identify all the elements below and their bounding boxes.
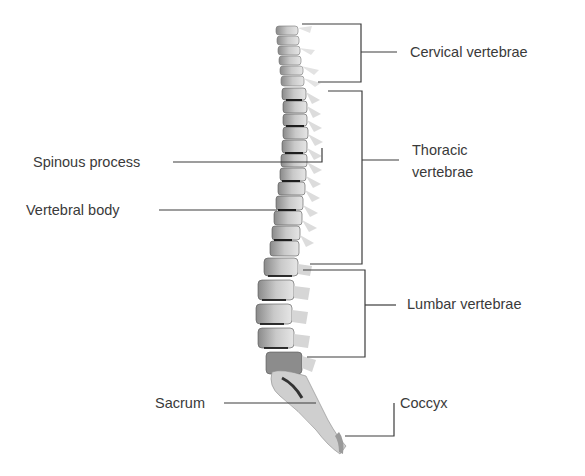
label-cervical-vertebrae: Cervical vertebrae [410,43,528,61]
sacrum-bone [271,371,346,454]
lumbar-bracket [303,270,365,357]
label-thoracic-line1: Thoracic [412,141,468,159]
label-sacrum: Sacrum [155,394,205,412]
label-vertebral-body: Vertebral body [26,201,120,219]
coccyx-bracket [345,403,394,436]
label-thoracic-line2: vertebrae [412,163,473,181]
spine-illustration [256,26,346,454]
label-coccyx: Coccyx [400,394,448,412]
thoracic-bracket [310,91,362,264]
label-spinous-process: Spinous process [33,153,140,171]
spine-diagram [0,0,585,476]
label-lumbar-vertebrae: Lumbar vertebrae [407,295,521,313]
